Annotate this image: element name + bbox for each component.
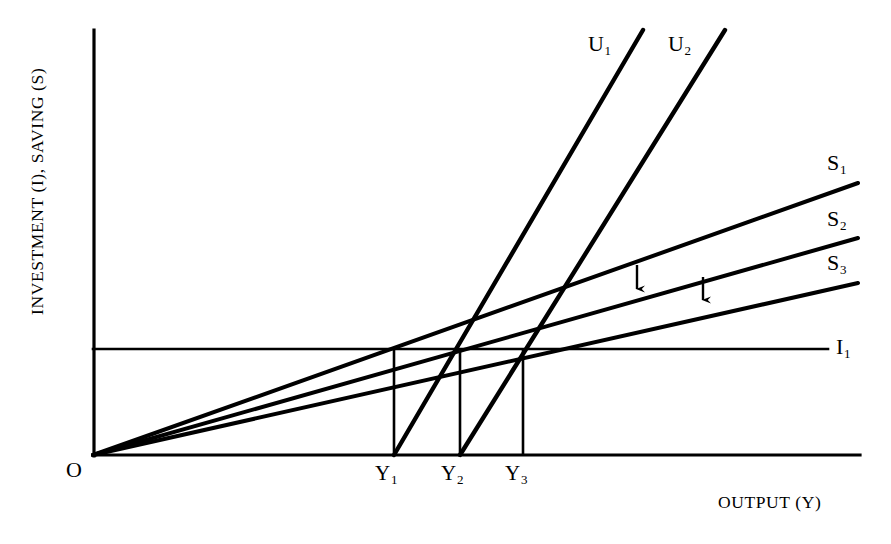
- saving-curve-2: [93, 238, 858, 455]
- curve-label-i1-sub: 1: [844, 346, 851, 361]
- curve-label-i1-text: I: [836, 334, 844, 359]
- curve-label-u1: U1: [588, 33, 611, 55]
- equilibrium-label-y2-text: Y: [441, 461, 456, 485]
- curve-label-s1-sub: 1: [840, 162, 847, 177]
- curve-label-s3-sub: 3: [840, 262, 847, 277]
- curve-label-s2: S2: [827, 208, 846, 230]
- x-axis-title: OUTPUT (Y): [718, 492, 821, 513]
- curve-label-u2: U2: [668, 33, 691, 55]
- equilibrium-label-y2: Y2: [441, 463, 463, 484]
- equilibrium-label-y1: Y1: [375, 463, 397, 484]
- utilization-curve-1: [394, 30, 643, 455]
- curve-label-s3: S3: [827, 252, 846, 274]
- curve-label-s1: S1: [827, 152, 846, 174]
- equilibrium-label-y3-text: Y: [505, 461, 520, 485]
- equilibrium-label-y3: Y3: [505, 463, 527, 484]
- curve-label-i1: I1: [836, 336, 850, 358]
- curve-label-u1-sub: 1: [605, 43, 612, 58]
- y-axis-title: INVESTMENT (I), SAVING (S): [27, 68, 48, 315]
- curve-label-s2-text: S: [827, 206, 839, 231]
- curve-label-u2-sub: 2: [685, 43, 692, 58]
- origin-label: O: [66, 459, 82, 481]
- curve-label-u1-text: U: [588, 31, 604, 56]
- equilibrium-label-y3-sub: 3: [521, 472, 528, 487]
- investment-saving-diagram: INVESTMENT (I), SAVING (S) OUTPUT (Y) O …: [0, 0, 891, 544]
- equilibrium-label-y2-sub: 2: [457, 472, 464, 487]
- curve-label-s1-text: S: [827, 150, 839, 175]
- curve-label-s3-text: S: [827, 250, 839, 275]
- curve-label-s2-sub: 2: [840, 218, 847, 233]
- curve-label-u2-text: U: [668, 31, 684, 56]
- equilibrium-label-y1-sub: 1: [391, 472, 398, 487]
- equilibrium-label-y1-text: Y: [375, 461, 390, 485]
